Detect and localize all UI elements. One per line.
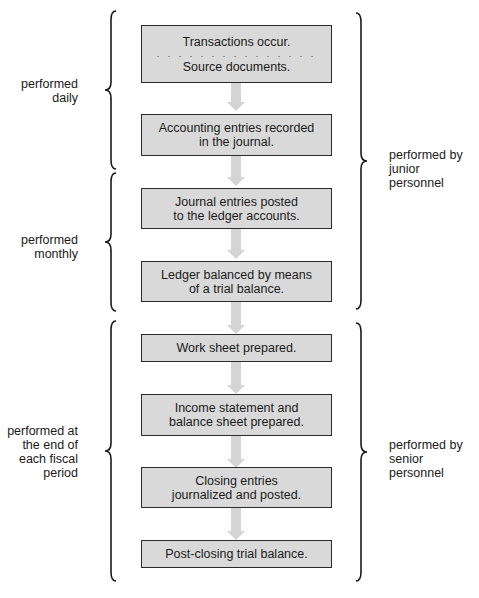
step-journal-entries: Accounting entries recorded in the journ… <box>141 114 332 156</box>
step-line: Source documents. <box>183 60 291 74</box>
label-performed-daily: performed daily <box>21 77 78 105</box>
label-line: performed by <box>389 148 463 162</box>
step-financial-statements: Income statement and balance sheet prepa… <box>141 394 332 436</box>
step-line: Ledger balanced by means <box>161 268 312 282</box>
step-line: Accounting entries recorded <box>159 121 315 135</box>
step-line: Journal entries posted <box>175 195 298 209</box>
dotted-separator: . . . . . . . . . . . . . . . <box>157 50 317 58</box>
flow-arrow-head-2 <box>227 177 245 186</box>
step-ledger-posting: Journal entries posted to the ledger acc… <box>141 188 332 229</box>
step-line: Transactions occur. <box>183 35 291 49</box>
label-line: performed <box>21 233 78 247</box>
flow-arrow-2 <box>231 156 241 178</box>
label-line: each fiscal <box>7 452 78 466</box>
label-performed-by-junior: performed by junior personnel <box>389 148 463 190</box>
flow-arrow-head-5 <box>227 385 245 394</box>
label-line: junior <box>389 162 463 176</box>
label-line: the end of <box>7 438 78 452</box>
right-brace-junior <box>354 12 368 310</box>
label-line: personnel <box>389 466 463 480</box>
label-line: monthly <box>21 247 78 261</box>
flow-arrow-7 <box>231 508 241 532</box>
label-performed-end-of-fiscal-period: performed at the end of each fiscal peri… <box>7 424 78 480</box>
flow-arrow-6 <box>231 436 241 460</box>
step-line: Closing entries <box>195 474 278 488</box>
left-brace-fiscal-period <box>104 320 118 582</box>
flow-arrow-1 <box>231 83 241 103</box>
label-performed-by-senior: performed by senior personnel <box>389 438 463 480</box>
flow-arrow-3 <box>231 229 241 251</box>
step-line: balance sheet prepared. <box>169 415 304 429</box>
label-line: performed at <box>7 424 78 438</box>
flow-arrow-head-4 <box>227 325 245 334</box>
label-line: period <box>7 466 78 480</box>
flow-arrow-head-3 <box>227 250 245 259</box>
flow-arrow-4 <box>231 302 241 326</box>
label-line: performed by <box>389 438 463 452</box>
step-transactions-source-documents: Transactions occur. . . . . . . . . . . … <box>141 25 332 83</box>
step-line: to the ledger accounts. <box>173 209 299 223</box>
step-closing-entries: Closing entries journalized and posted. <box>141 467 332 508</box>
step-line: of a trial balance. <box>189 282 284 296</box>
right-brace-senior <box>354 322 368 582</box>
label-line: performed <box>21 77 78 91</box>
step-line: Post-closing trial balance. <box>165 547 307 561</box>
left-brace-daily <box>104 10 118 170</box>
flow-arrow-head-1 <box>227 102 245 111</box>
label-performed-monthly: performed monthly <box>21 233 78 261</box>
step-post-closing-trial-balance: Post-closing trial balance. <box>141 540 332 568</box>
step-trial-balance: Ledger balanced by means of a trial bala… <box>141 261 332 302</box>
step-line: in the journal. <box>199 135 274 149</box>
step-line: Income statement and <box>175 401 299 415</box>
flow-arrow-5 <box>231 362 241 386</box>
flow-arrow-head-7 <box>227 531 245 540</box>
step-line: Work sheet prepared. <box>177 341 297 355</box>
label-line: daily <box>21 91 78 105</box>
left-brace-monthly <box>104 172 118 312</box>
step-line: journalized and posted. <box>172 488 301 502</box>
label-line: senior <box>389 452 463 466</box>
step-work-sheet: Work sheet prepared. <box>141 334 332 362</box>
label-line: personnel <box>389 176 463 190</box>
